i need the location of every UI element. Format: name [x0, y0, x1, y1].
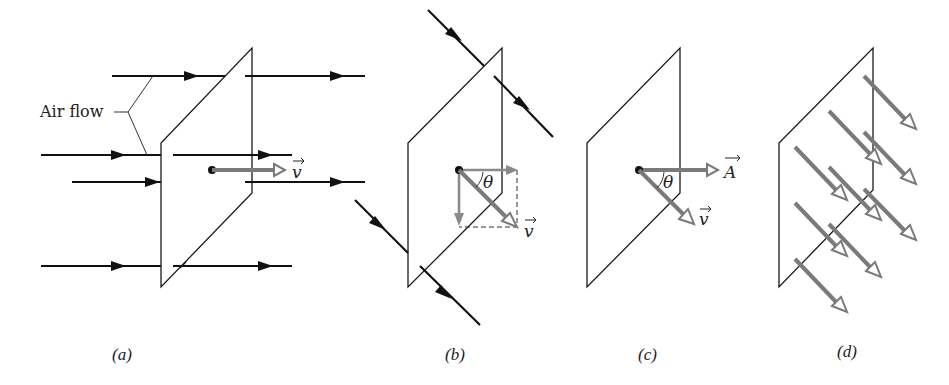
- area-plane: [779, 48, 873, 287]
- air-flow-line: [41, 261, 292, 271]
- angle-arc: [476, 172, 483, 187]
- theta-label: θ: [663, 172, 673, 192]
- velocity-label: v: [524, 221, 534, 241]
- panel-b: θ v (b): [355, 10, 553, 364]
- panel-caption-b: (b): [445, 345, 465, 364]
- air-flow-line: [72, 177, 365, 187]
- panel-caption-c: (c): [638, 345, 657, 364]
- theta-label: θ: [483, 172, 493, 192]
- vector-arrow-icon: [725, 155, 740, 161]
- panel-a: v Air flow (a): [39, 48, 365, 364]
- panel-d: (d): [779, 48, 916, 361]
- panel-caption-d: (d): [837, 342, 857, 361]
- area-plane: [408, 48, 502, 287]
- air-flow-line: [112, 71, 365, 81]
- air-flow-figure: v Air flow (a): [0, 0, 949, 385]
- air-flow-line: [428, 10, 553, 137]
- air-flow-line: [41, 150, 292, 160]
- velocity-vector: [208, 164, 285, 176]
- velocity-label: v: [699, 209, 709, 229]
- velocity-field-arrows: [795, 76, 916, 312]
- air-flow-label: Air flow: [39, 102, 104, 121]
- area-vector-label: A: [722, 162, 736, 182]
- panel-c: A θ v (c): [587, 48, 740, 364]
- area-plane: [587, 48, 680, 287]
- velocity-label: v: [292, 162, 302, 182]
- area-plane: [161, 48, 252, 287]
- panel-caption-a: (a): [112, 345, 132, 364]
- area-vector: [639, 164, 718, 176]
